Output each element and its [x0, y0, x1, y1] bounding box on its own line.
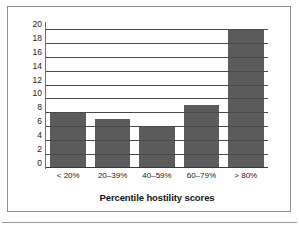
gridline	[46, 140, 268, 141]
x-axis-line	[46, 167, 268, 168]
gridline	[46, 57, 268, 58]
x-axis-tick-label: 20–39%	[90, 170, 134, 181]
y-axis-tick-label: 0	[22, 159, 42, 168]
y-axis-tick-label: 14	[22, 62, 42, 71]
gridline	[46, 112, 268, 113]
x-axis-tick-labels: < 20%20–39%40–59%60–79%> 80%	[46, 170, 268, 182]
bottom-divider-rule	[2, 222, 297, 223]
bar	[139, 126, 175, 168]
y-axis-tick-label: 6	[22, 117, 42, 126]
y-axis-tick-label: 2	[22, 145, 42, 154]
y-axis-tick-label: 8	[22, 103, 42, 112]
plot-area: 02468101214161820	[46, 22, 268, 168]
y-axis-tick-label: 4	[22, 131, 42, 140]
gridline	[46, 126, 268, 127]
x-axis-tick-label: < 20%	[46, 170, 90, 181]
gridline	[46, 43, 268, 44]
gridline	[46, 29, 268, 30]
gridline	[46, 71, 268, 72]
y-axis-tick-label: 12	[22, 76, 42, 85]
bar-series	[46, 22, 268, 168]
bar	[184, 105, 220, 168]
y-axis-tick-label: 10	[22, 89, 42, 98]
figure-container: Episodes of Incident CHD 024681012141618…	[0, 0, 299, 230]
gridline	[46, 98, 268, 99]
x-axis-tick-label: 40–59%	[135, 170, 179, 181]
gridline	[46, 85, 268, 86]
x-axis-tick-label: > 80%	[224, 170, 268, 181]
y-axis-tick-label: 20	[22, 20, 42, 29]
x-axis-title: Percentile hostility scores	[46, 192, 268, 203]
y-axis-tick-label: 18	[22, 34, 42, 43]
y-axis-line	[45, 22, 46, 169]
gridline	[46, 154, 268, 155]
y-axis-tick-label: 16	[22, 48, 42, 57]
plot-inner: 02468101214161820	[46, 22, 268, 168]
x-axis-tick-label: 60–79%	[179, 170, 223, 181]
